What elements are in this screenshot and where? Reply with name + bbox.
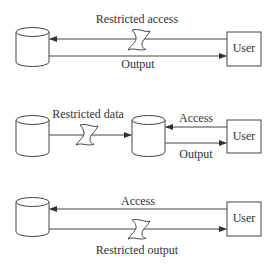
access-label: Access <box>179 111 213 125</box>
scenario-2-restricted-data: Restricted data Access Output User <box>16 107 261 161</box>
database-cylinder <box>16 198 49 237</box>
target-database-cylinder <box>132 116 165 157</box>
diagram-canvas: Restricted access Output User Restricted… <box>0 0 276 269</box>
restricted-data-label: Restricted data <box>52 107 124 121</box>
user-box: User <box>227 202 261 236</box>
restricted-output-label: Restricted output <box>96 243 179 257</box>
user-label: User <box>233 41 256 55</box>
restriction-scroll-icon <box>128 30 150 50</box>
output-label: Output <box>179 147 213 161</box>
scenario-3-restricted-output: Access Restricted output User <box>16 194 261 257</box>
source-database-cylinder <box>16 116 49 157</box>
user-box: User <box>227 32 261 66</box>
output-label: Output <box>121 57 155 71</box>
user-box: User <box>227 120 261 153</box>
user-label: User <box>233 129 256 143</box>
access-label: Access <box>121 194 155 208</box>
user-label: User <box>233 211 256 225</box>
restricted-access-label: Restricted access <box>96 12 179 26</box>
database-cylinder <box>16 28 49 67</box>
scenario-1-restricted-access: Restricted access Output User <box>16 12 261 71</box>
